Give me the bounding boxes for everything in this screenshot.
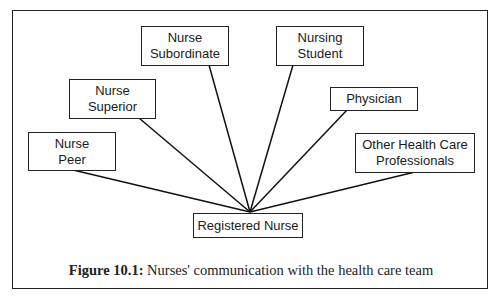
edge-nurse-subordinate [209, 65, 250, 212]
node-other-health-care-professionals: Other Health Care Professionals [355, 133, 475, 173]
edge-nurse-peer [73, 170, 250, 212]
node-nurse-subordinate: Nurse Subordinate [141, 26, 229, 66]
figure-caption: Figure 10.1: Nurses' communication with … [0, 262, 502, 279]
node-registered-nurse: Registered Nurse [193, 213, 303, 238]
figure-caption-text: Nurses' communication with the health ca… [143, 262, 433, 278]
figure-caption-label: Figure 10.1: [69, 262, 144, 278]
node-nurse-superior: Nurse Superior [69, 79, 156, 119]
edge-nurse-superior [139, 118, 250, 212]
node-nurse-peer: Nurse Peer [28, 132, 116, 171]
node-nursing-student: Nursing Student [276, 26, 364, 66]
node-physician: Physician [330, 87, 418, 111]
edge-other-health-care-professionals [250, 172, 415, 212]
